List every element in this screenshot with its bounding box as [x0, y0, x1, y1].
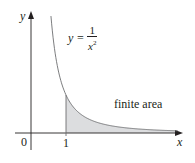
- finite-area-label: finite area: [114, 98, 162, 110]
- equation-denominator: x2: [88, 37, 96, 53]
- equation-numerator: 1: [87, 24, 97, 37]
- plot-canvas: [0, 0, 195, 163]
- x-axis-label: x: [177, 136, 182, 148]
- x-tick-label-1: 1: [63, 137, 69, 149]
- equation-fraction: 1 x2: [87, 24, 97, 53]
- y-axis-arrow-icon: [28, 11, 34, 19]
- y-axis-label: y: [20, 10, 25, 22]
- equation-lhs: y =: [68, 32, 84, 44]
- area-under-curve-diagram: y x 0 1 y = 1 x2 finite area: [0, 0, 195, 163]
- curve-equation-label: y = 1 x2: [68, 24, 97, 53]
- equation-denominator-exp: 2: [93, 39, 97, 47]
- origin-label: 0: [21, 136, 27, 148]
